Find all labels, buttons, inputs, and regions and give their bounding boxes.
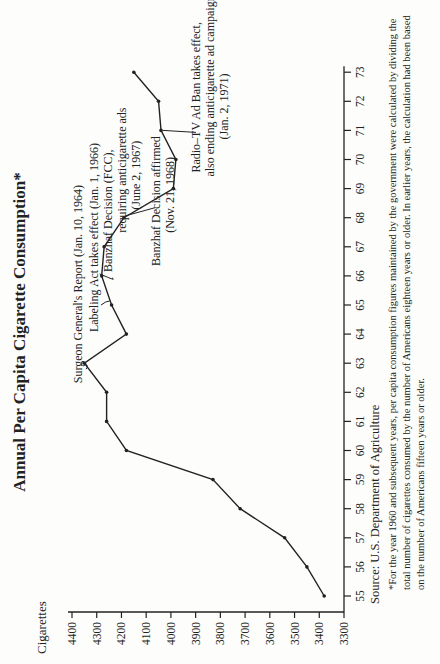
data-point xyxy=(283,536,287,540)
x-tick-label: 56 xyxy=(354,561,366,573)
annotation-text: also ending anticigarette ad campaign xyxy=(203,0,217,177)
y-tick-label: 3600 xyxy=(264,622,276,645)
source-note: Source: U.S. Department of Agriculture xyxy=(368,405,383,604)
annotation-text: Labeling Act takes effect (Jan. 1, 1966) xyxy=(87,143,101,332)
data-point xyxy=(211,478,215,482)
x-tick-label: 62 xyxy=(354,386,366,398)
y-tick-label: 4100 xyxy=(140,622,152,645)
annotation-text: Radio–TV Ad Ban takes effect, xyxy=(189,22,203,173)
x-tick-label: 60 xyxy=(354,445,366,457)
data-point xyxy=(125,449,129,453)
y-tick-label: 3700 xyxy=(239,622,251,645)
x-tick-label: 66 xyxy=(354,270,366,282)
x-tick-label: 72 xyxy=(354,95,366,107)
data-point xyxy=(305,565,309,569)
footnote: *For the year 1960 and subsequent years,… xyxy=(386,10,428,590)
x-tick-label: 55 xyxy=(354,590,366,602)
x-tick-label: 63 xyxy=(354,357,366,369)
data-point xyxy=(238,507,242,511)
data-point xyxy=(159,129,163,133)
x-tick-label: 69 xyxy=(354,183,366,195)
y-tick-label: 4200 xyxy=(115,622,127,645)
annotation-text: requiring anticigarette ads xyxy=(115,107,129,233)
y-tick-label: 4400 xyxy=(66,622,78,645)
y-tick-label: 4300 xyxy=(91,622,103,645)
chart-stage: Annual Per Capita Cigarette Consumption*… xyxy=(0,0,440,664)
annotation-text: (Nov. 21, 1968) xyxy=(163,157,177,233)
data-point xyxy=(125,332,129,336)
x-tick-label: 57 xyxy=(354,532,366,544)
y-tick-label: 3400 xyxy=(313,622,325,645)
data-point xyxy=(132,70,136,74)
x-tick-label: 58 xyxy=(354,503,366,515)
x-tick-label: 59 xyxy=(354,474,366,486)
y-tick-label: 3300 xyxy=(338,622,350,645)
annotation-text: (Jan. 2, 1971) xyxy=(217,74,231,140)
annotation-text: Banzhaf Decision affirmed xyxy=(149,136,163,266)
x-tick-label: 67 xyxy=(354,241,366,253)
y-tick-label: 4000 xyxy=(165,622,177,645)
annotation-arrow xyxy=(101,301,110,305)
y-tick-label: 3500 xyxy=(289,622,301,645)
y-tick-label: 3900 xyxy=(190,622,202,645)
data-point xyxy=(157,100,161,104)
data-point xyxy=(322,594,326,598)
x-tick-label: 68 xyxy=(354,212,366,224)
x-tick-label: 70 xyxy=(354,154,366,166)
annotation-text: Surgeon General's Report (Jan. 10, 1964) xyxy=(71,185,85,383)
data-point xyxy=(110,303,114,307)
x-tick-label: 64 xyxy=(354,328,366,340)
x-tick-label: 71 xyxy=(354,124,366,136)
annotation-text: Banzhaf Decision (FCC), xyxy=(101,150,115,272)
y-tick-label: 3800 xyxy=(214,622,226,645)
x-tick-label: 73 xyxy=(354,66,366,78)
x-tick-label: 65 xyxy=(354,299,366,311)
data-point xyxy=(105,420,109,424)
x-tick-label: 61 xyxy=(354,415,366,427)
data-point xyxy=(105,390,109,394)
annotation-text: (June 2, 1967) xyxy=(129,141,143,210)
